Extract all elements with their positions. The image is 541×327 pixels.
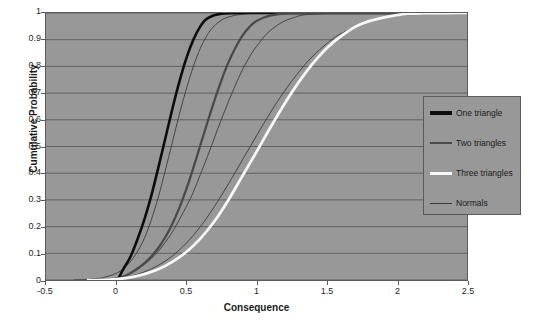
y-axis-tick-label: 0.1: [0, 249, 41, 258]
legend-item-normals: Normals: [430, 196, 520, 210]
legend-item-three-triangles: Three triangles: [430, 166, 520, 180]
x-axis-tick-label: 2: [378, 287, 418, 296]
legend-swatch-icon: [430, 138, 452, 148]
legend-swatch-icon: [430, 198, 452, 208]
y-axis-tick-label: 0: [0, 276, 41, 285]
legend-swatch-icon: [430, 108, 452, 118]
legend-label: One triangle: [456, 109, 502, 118]
x-axis-tick-label: 0: [96, 287, 136, 296]
y-axis-tick-label: 0.2: [0, 222, 41, 231]
y-axis-title: Cumulative Probability: [28, 39, 39, 199]
legend-item-one-triangle: One triangle: [430, 106, 520, 120]
legend-label: Normals: [456, 199, 488, 208]
gridlines: [46, 13, 467, 280]
x-axis-tick-label: 1.5: [307, 287, 347, 296]
x-axis-tick-label: 1: [237, 287, 277, 296]
x-axis-tick-label: 2.5: [448, 287, 488, 296]
x-axis-title: Consequence: [45, 302, 468, 313]
legend-label: Two triangles: [456, 139, 506, 148]
x-axis-tick-mark: [257, 281, 258, 285]
x-axis-tick-mark: [468, 281, 469, 285]
plot-area: [45, 12, 468, 281]
x-axis-tick-mark: [116, 281, 117, 285]
x-axis-tick-label: 0.5: [166, 287, 206, 296]
chart-legend: One triangleTwo trianglesThree triangles…: [423, 96, 521, 215]
y-axis-tick-label: 1: [0, 7, 41, 16]
legend-item-two-triangles: Two triangles: [430, 136, 520, 150]
x-axis-tick-mark: [186, 281, 187, 285]
x-axis-tick-mark: [398, 281, 399, 285]
x-axis-tick-mark: [45, 281, 46, 285]
x-axis-tick-label: -0.5: [25, 287, 65, 296]
chart-canvas: [46, 13, 467, 280]
x-axis-tick-mark: [327, 281, 328, 285]
legend-swatch-icon: [430, 168, 452, 178]
legend-label: Three triangles: [456, 169, 513, 178]
chart-page: 00.10.20.30.40.50.60.70.80.91 -0.500.511…: [0, 0, 541, 327]
